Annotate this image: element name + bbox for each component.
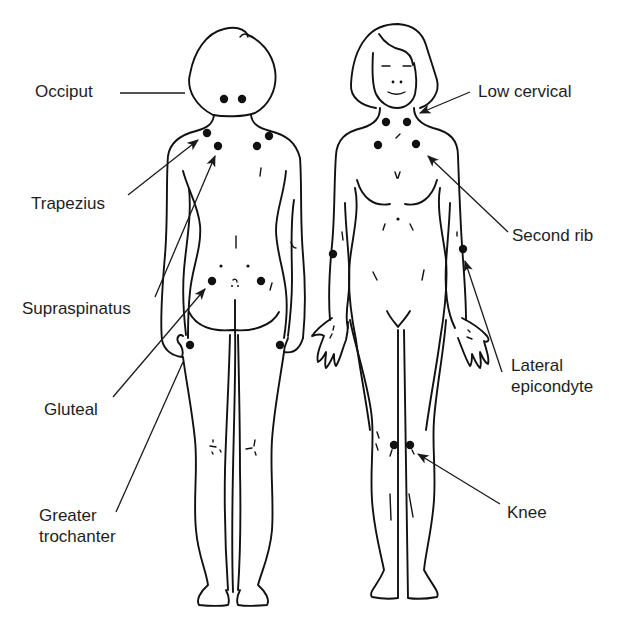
label-greater-trochanter-line2: trochanter bbox=[39, 526, 116, 547]
label-lateral-epicondyle-line2: epicondyte bbox=[511, 376, 593, 397]
trapezius-point-right bbox=[265, 132, 273, 140]
palm-marks-left bbox=[330, 326, 334, 338]
trochanter-point-right bbox=[276, 341, 284, 349]
posterior-figure bbox=[161, 28, 305, 606]
knee-leader bbox=[418, 454, 500, 504]
front-right-leg bbox=[404, 320, 446, 599]
nostril bbox=[392, 81, 395, 84]
label-occiput: Occiput bbox=[35, 81, 93, 102]
gluteal-point-left bbox=[208, 277, 216, 285]
front-chest bbox=[357, 180, 437, 205]
sacrum-tick bbox=[233, 279, 237, 282]
epicondyle-leader bbox=[465, 261, 502, 372]
supraspinatus-point-left bbox=[214, 142, 222, 150]
second-rib-point-right bbox=[412, 140, 420, 148]
low-cervical-point-right bbox=[403, 118, 411, 126]
back-midline bbox=[232, 300, 235, 592]
label-lateral-epicondyle: Lateral epicondyte bbox=[511, 355, 593, 397]
label-trapezius: Trapezius bbox=[31, 193, 105, 214]
rib-ticks bbox=[383, 224, 413, 230]
back-right-torso-side bbox=[288, 200, 294, 336]
second-rib-point-left bbox=[374, 141, 382, 149]
hair-whorl bbox=[240, 34, 248, 37]
knee-point-right bbox=[406, 441, 414, 449]
occiput-point-left bbox=[220, 95, 228, 103]
cleavage-tick bbox=[395, 172, 400, 178]
label-gluteal: Gluteal bbox=[44, 399, 98, 420]
elbow-ticks bbox=[342, 232, 457, 240]
occiput-point-right bbox=[238, 95, 246, 103]
sternum-tick bbox=[396, 134, 400, 138]
low-cervical-point-left bbox=[382, 118, 390, 126]
front-left-leg bbox=[350, 320, 398, 599]
hip-tick bbox=[270, 283, 272, 290]
palm-marks-right bbox=[467, 330, 472, 339]
back-left-hand bbox=[162, 335, 183, 357]
trochanter-point-left bbox=[186, 341, 194, 349]
back-right-hand bbox=[284, 338, 303, 352]
front-left-arm-inner bbox=[345, 203, 349, 328]
tender-points-diagram: Occiput Trapezius Supraspinatus Gluteal … bbox=[0, 0, 630, 622]
front-left-torso bbox=[349, 188, 370, 430]
back-inner-right-leg bbox=[238, 335, 240, 590]
anterior-figure bbox=[312, 24, 489, 599]
label-supraspinatus: Supraspinatus bbox=[22, 298, 131, 319]
back-inner-left-leg bbox=[225, 335, 230, 590]
epicondyle-point-left bbox=[329, 250, 337, 258]
front-left-hand bbox=[312, 318, 348, 368]
leader-lines bbox=[113, 92, 508, 512]
back-right-leg bbox=[237, 352, 284, 606]
abdomen-ticks bbox=[373, 270, 424, 280]
label-greater-trochanter-line1: Greater bbox=[39, 505, 116, 526]
label-second-rib: Second rib bbox=[512, 225, 593, 246]
low-cervical-leader bbox=[420, 92, 470, 113]
back-left-knee-marks bbox=[210, 440, 221, 454]
back-buttocks bbox=[189, 312, 279, 330]
epicondyle-point-right bbox=[459, 245, 467, 253]
supraspinatus-point-right bbox=[253, 142, 261, 150]
shoulder-tick bbox=[260, 168, 261, 176]
back-head-outline bbox=[189, 28, 275, 116]
knee-point-left bbox=[390, 441, 398, 449]
label-low-cervical: Low cervical bbox=[478, 81, 572, 102]
front-face bbox=[372, 53, 416, 108]
back-left-leg bbox=[183, 357, 229, 606]
back-right-knee-marks bbox=[246, 440, 256, 455]
front-groin bbox=[387, 311, 410, 327]
front-hair-part bbox=[379, 34, 413, 65]
label-greater-trochanter: Greater trochanter bbox=[39, 505, 116, 547]
shin-lines bbox=[390, 494, 413, 520]
front-hair bbox=[351, 24, 438, 108]
label-lateral-epicondyle-line1: Lateral bbox=[511, 355, 593, 376]
mouth bbox=[388, 92, 405, 94]
trapezius-point-left bbox=[203, 129, 211, 137]
trochanter-leader bbox=[116, 362, 183, 512]
gluteal-point-right bbox=[257, 277, 265, 285]
label-knee: Knee bbox=[507, 502, 547, 523]
front-right-hand bbox=[458, 318, 489, 368]
nostril bbox=[400, 81, 403, 84]
